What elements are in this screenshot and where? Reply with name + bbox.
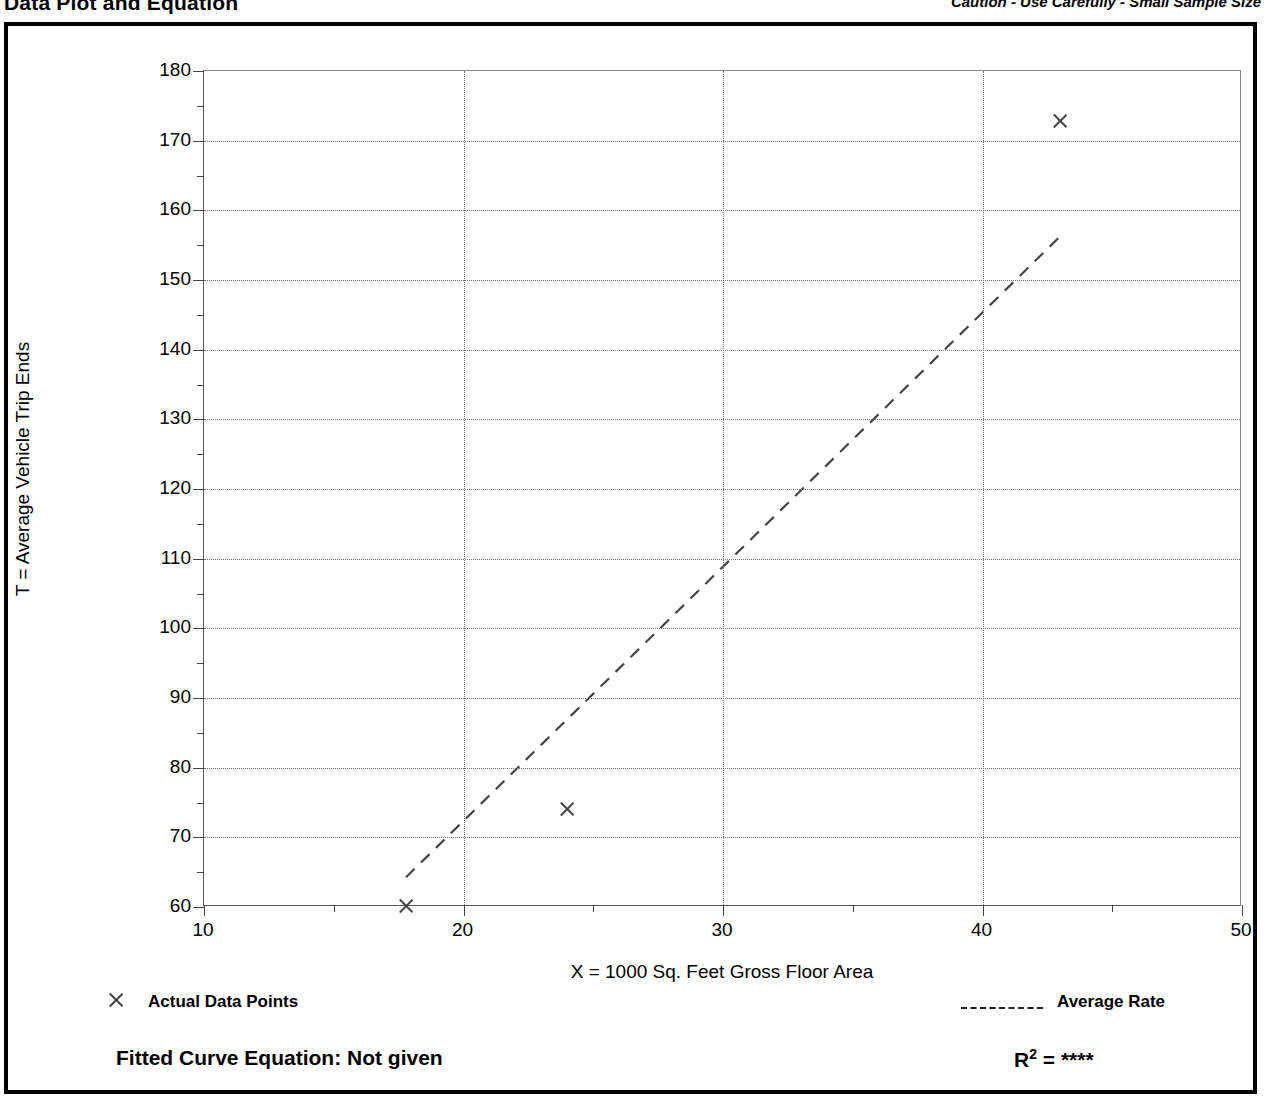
y-axis-tick-label: 120 — [159, 477, 191, 499]
y-axis-tick-minor — [197, 803, 204, 804]
data-point-marker — [558, 800, 576, 818]
y-axis-tick-label: 70 — [170, 825, 191, 847]
caution-note: Caution - Use Carefully - Small Sample S… — [951, 0, 1261, 10]
y-axis-tick-label: 60 — [170, 895, 191, 917]
y-axis-tick — [193, 907, 204, 908]
y-axis-tick — [193, 350, 204, 351]
y-axis-tick — [193, 837, 204, 838]
y-axis-title: T = Average Vehicle Trip Ends — [12, 189, 34, 749]
y-axis-tick-minor — [197, 594, 204, 595]
gridline-horizontal — [204, 350, 1240, 351]
data-point-marker — [1051, 112, 1069, 130]
legend-label-average-rate: Average Rate — [1057, 992, 1165, 1012]
dashed-line-icon — [961, 1007, 1043, 1009]
x-axis-tick-labels: 1020304050 — [203, 919, 1241, 945]
y-axis-tick-label: 150 — [159, 268, 191, 290]
fitted-curve-equation: Fitted Curve Equation: Not given — [116, 1046, 443, 1070]
x-axis-tick-label: 30 — [711, 919, 732, 941]
y-axis-tick-label: 160 — [159, 198, 191, 220]
y-axis-tick-label: 130 — [159, 407, 191, 429]
y-axis-tick — [193, 71, 204, 72]
y-axis-tick — [193, 628, 204, 629]
gridline-horizontal — [204, 559, 1240, 560]
r-squared-value: R2 = **** — [1014, 1046, 1094, 1072]
gridline-vertical — [464, 71, 465, 905]
r2-exponent: 2 — [1029, 1046, 1037, 1062]
y-axis-tick-label: 80 — [170, 756, 191, 778]
y-axis-tick-minor — [197, 872, 204, 873]
x-axis-tick-minor — [593, 905, 594, 912]
gridline-horizontal — [204, 698, 1240, 699]
page-header: Data Plot and Equation Caution - Use Car… — [0, 0, 1269, 21]
y-axis-tick — [193, 768, 204, 769]
page-title: Data Plot and Equation — [4, 0, 238, 15]
average-rate-line — [406, 238, 1059, 877]
r2-base: R — [1014, 1048, 1029, 1071]
x-axis-tick-minor — [853, 905, 854, 912]
gridline-horizontal — [204, 837, 1240, 838]
trend-line-svg — [204, 71, 1240, 905]
gridline-horizontal — [204, 628, 1240, 629]
x-axis-title: X = 1000 Sq. Feet Gross Floor Area — [203, 961, 1241, 983]
y-axis-tick-minor — [197, 663, 204, 664]
x-axis-tick — [1242, 905, 1243, 916]
y-axis-tick-minor — [197, 733, 204, 734]
y-axis-tick — [193, 489, 204, 490]
y-axis-tick — [193, 419, 204, 420]
y-axis-tick — [193, 280, 204, 281]
x-axis-tick-label: 20 — [452, 919, 473, 941]
gridline-horizontal — [204, 419, 1240, 420]
y-axis-tick-label: 90 — [170, 686, 191, 708]
y-axis-tick-label: 140 — [159, 338, 191, 360]
gridline-horizontal — [204, 489, 1240, 490]
y-axis-tick-label: 100 — [159, 616, 191, 638]
y-axis-tick — [193, 141, 204, 142]
y-axis-tick — [193, 210, 204, 211]
plot-area — [203, 70, 1241, 906]
x-axis-tick — [204, 905, 205, 916]
legend-label-points: Actual Data Points — [148, 992, 298, 1012]
y-axis-tick-minor — [197, 385, 204, 386]
x-axis-tick — [723, 905, 724, 916]
y-axis-tick-minor — [197, 315, 204, 316]
y-axis-tick-minor — [197, 176, 204, 177]
y-axis-tick — [193, 559, 204, 560]
y-axis-tick-minor — [197, 454, 204, 455]
gridline-horizontal — [204, 141, 1240, 142]
chart-legend: Actual Data Points Average Rate — [8, 986, 1253, 1030]
data-point-marker — [397, 897, 415, 915]
x-axis-tick-label: 50 — [1230, 919, 1251, 941]
gridline-vertical — [983, 71, 984, 905]
y-axis-tick-labels: 60708090100110120130140150160170180 — [113, 70, 191, 906]
gridline-horizontal — [204, 768, 1240, 769]
r2-stars: **** — [1061, 1048, 1094, 1071]
chart-footer: Fitted Curve Equation: Not given R2 = **… — [8, 1042, 1253, 1086]
gridline-vertical — [723, 71, 724, 905]
r2-equals: = — [1037, 1048, 1061, 1071]
x-axis-tick-label: 10 — [192, 919, 213, 941]
y-axis-tick-label: 180 — [159, 59, 191, 81]
y-axis-tick-minor — [197, 245, 204, 246]
chart-container: T = Average Vehicle Trip Ends 6070809010… — [8, 26, 1253, 1090]
y-axis-tick-minor — [197, 524, 204, 525]
x-axis-tick-minor — [334, 905, 335, 912]
y-axis-tick-label: 170 — [159, 129, 191, 151]
y-axis-tick-minor — [197, 106, 204, 107]
x-axis-tick — [983, 905, 984, 916]
gridline-horizontal — [204, 280, 1240, 281]
x-axis-tick-minor — [1112, 905, 1113, 912]
y-axis-tick-label: 110 — [161, 547, 191, 569]
y-axis-tick — [193, 698, 204, 699]
x-axis-tick-label: 40 — [971, 919, 992, 941]
x-marker-icon — [107, 991, 125, 1009]
chart-frame: T = Average Vehicle Trip Ends 6070809010… — [4, 22, 1257, 1094]
x-axis-tick — [464, 905, 465, 916]
gridline-horizontal — [204, 210, 1240, 211]
